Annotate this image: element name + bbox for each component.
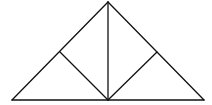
triangle-diagram: [0, 0, 212, 105]
right-inner-segment: [108, 52, 157, 100]
left-inner-segment: [60, 52, 108, 100]
